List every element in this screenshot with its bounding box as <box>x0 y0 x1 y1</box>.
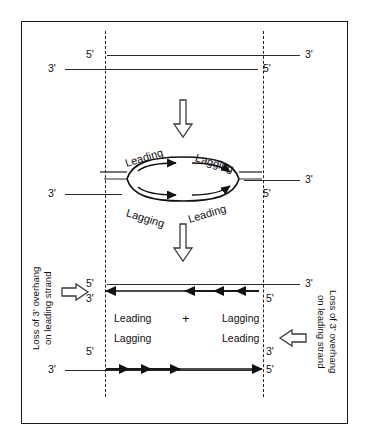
duplex-a-top-right-label: 3' <box>305 278 313 289</box>
stage2-bottom-strand-left <box>65 194 122 195</box>
stage2-bottom-strand-left-label: 3' <box>48 188 56 199</box>
dashed-reference-line-left <box>105 31 106 397</box>
duplex-b-bottom-right-label: 5' <box>266 364 274 375</box>
stage1-bottom-strand-right-label: 5' <box>263 63 271 74</box>
stage2-bottom-strand-right-label: 5' <box>263 188 271 199</box>
stage1-top-strand-left-label: 5' <box>86 49 94 60</box>
duplex-a-bottom-right-label: 5' <box>266 293 274 304</box>
bubble-label-bottom-right: Leading <box>187 203 228 225</box>
duplex-a-segment-label-left: Leading <box>114 313 151 324</box>
annotation-left-loss-of-overhang: Loss of 3' overhang on leading strand <box>30 267 54 350</box>
stage2-top-strand-right <box>244 180 300 181</box>
figure-canvas: 5' 3' 3' 5' 3' 3' 5' Leading Lagging Lag… <box>0 0 366 444</box>
annotation-left-line1: Loss of 3' overhang <box>30 267 42 350</box>
figure-border: 5' 3' 3' 5' 3' 3' 5' Leading Lagging Lag… <box>21 21 348 424</box>
annotation-right-loss-of-overhang: Loss of 3' overhang on leading strand <box>315 290 339 373</box>
duplex-a-top-left-label: 5' <box>86 278 94 289</box>
duplex-b-segment-label-right: Leading <box>222 333 259 344</box>
bubble-label-top-left: Leading <box>124 147 165 169</box>
duplex-b-top-right-label: 3' <box>266 346 274 357</box>
annotation-right-line2: on leading strand <box>315 290 327 373</box>
duplex-b-top-left-label: 5' <box>86 346 94 357</box>
stage1-bottom-strand <box>65 69 258 70</box>
duplex-b-bottom-left-label: 3' <box>48 364 56 375</box>
stage2-top-strand-right-label: 3' <box>305 174 313 185</box>
duplex-b-segment-label-left: Lagging <box>114 333 151 344</box>
stage1-top-strand-right-label: 3' <box>305 49 313 60</box>
annotation-right-line1: Loss of 3' overhang <box>327 290 339 373</box>
stage1-top-strand <box>107 55 300 56</box>
stage1-bottom-strand-left-label: 3' <box>48 63 56 74</box>
annotation-left-line2: on leading strand <box>42 267 54 350</box>
bubble-label-top-right: Lagging <box>194 152 235 174</box>
bubble-label-bottom-left: Lagging <box>125 207 166 229</box>
duplex-a-top-strand <box>107 284 300 285</box>
plus-sign: + <box>182 312 190 325</box>
duplex-b-bottom-strand <box>65 370 258 371</box>
dashed-reference-line-right <box>263 31 264 397</box>
duplex-a-bottom-left-label: 3' <box>86 293 94 304</box>
duplex-a-segment-label-right: Lagging <box>222 313 259 324</box>
